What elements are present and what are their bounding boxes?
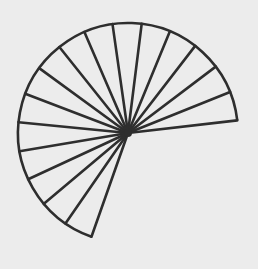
diagram-canvas	[0, 0, 258, 269]
sector-center-point	[124, 129, 132, 137]
sector-fan-diagram	[0, 0, 258, 269]
